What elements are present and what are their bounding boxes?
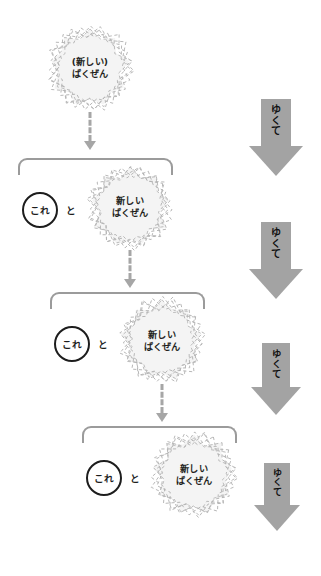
blob-outline-icon [46, 24, 134, 112]
arrow-shaft [161, 384, 164, 413]
dashed-connector-arrow [120, 250, 140, 288]
yukute-1-arrow: ゆくて [249, 99, 303, 176]
arrow-head [84, 141, 96, 150]
kore-circle[interactable]: これ [86, 460, 122, 496]
big-arrow-head [251, 387, 301, 415]
blob-shape: 新しいばくぜん [118, 297, 206, 385]
yukute-2-arrow: ゆくて [249, 222, 303, 299]
big-arrow-head [249, 146, 303, 176]
blob-shape: (新しい)ばくぜん [46, 24, 134, 112]
diagram-layer: (新しい)ばくぜんこれと新しいばくぜんこれと新しいばくぜんこれと新しいばくぜんゆ… [0, 0, 321, 576]
kore-circle-label: これ [62, 337, 82, 351]
conjunction-label: と [66, 203, 76, 217]
conjunction-label: と [130, 471, 140, 485]
arrow-shaft [129, 250, 132, 279]
blob-shape: 新しいばくぜん [86, 163, 174, 251]
yukute-3-arrow: ゆくて [251, 343, 301, 415]
kore-circle-label: これ [30, 203, 50, 217]
blob-outline-icon [150, 431, 238, 519]
big-arrow-shaft [264, 463, 290, 505]
dashed-connector-arrow [80, 112, 100, 150]
big-arrow-shaft [261, 222, 291, 269]
conjunction-label: と [98, 337, 108, 351]
blob-outline-icon [118, 297, 206, 385]
big-arrow-shaft [261, 99, 291, 146]
diagram-canvas: (新しい)ばくぜんこれと新しいばくぜんこれと新しいばくぜんこれと新しいばくぜんゆ… [0, 0, 321, 576]
big-arrow-head [254, 505, 300, 531]
arrow-head [124, 279, 136, 288]
yukute-4-arrow: ゆくて [254, 463, 300, 531]
arrow-shaft [89, 112, 92, 141]
kore-circle[interactable]: これ [22, 192, 58, 228]
blob-outline-icon [86, 163, 174, 251]
big-arrow-shaft [262, 343, 290, 387]
kore-circle[interactable]: これ [54, 326, 90, 362]
kore-circle-label: これ [94, 471, 114, 485]
arrow-head [156, 413, 168, 422]
big-arrow-head [249, 269, 303, 299]
dashed-connector-arrow [152, 384, 172, 422]
blob-shape: 新しいばくぜん [150, 431, 238, 519]
